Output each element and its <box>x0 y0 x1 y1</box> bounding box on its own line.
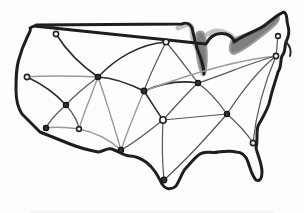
node-icon <box>77 127 82 132</box>
node-icon <box>95 74 100 79</box>
map-network-diagram <box>0 0 304 213</box>
node-icon <box>53 31 58 36</box>
node-icon <box>276 34 281 39</box>
node-icon <box>141 88 147 94</box>
paper-edge <box>30 207 274 213</box>
node-icon <box>63 102 68 107</box>
node-icon <box>195 80 200 85</box>
node-icon <box>160 117 166 123</box>
node-icon <box>43 125 48 130</box>
node-icon <box>118 147 123 152</box>
node-icon <box>24 74 29 79</box>
node-icon <box>273 53 278 58</box>
us-network-sketch <box>0 0 304 213</box>
node-icon <box>224 111 229 116</box>
node-icon <box>250 140 255 145</box>
east-coast-detail <box>286 42 291 56</box>
node-icon <box>163 39 169 45</box>
node-icon <box>161 177 167 183</box>
